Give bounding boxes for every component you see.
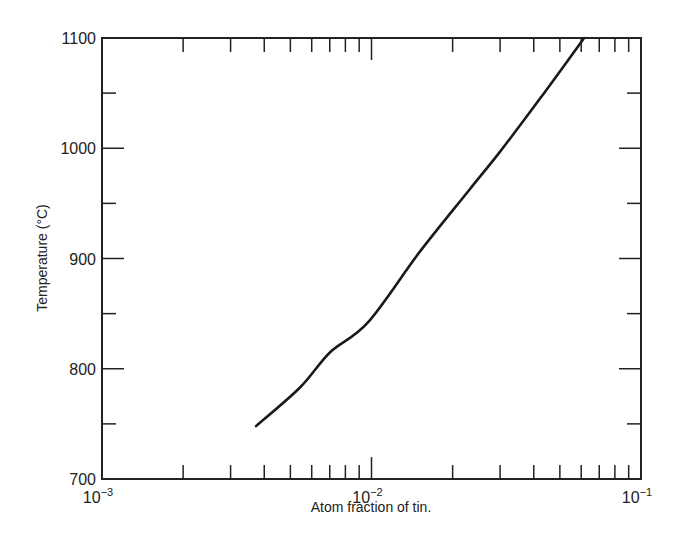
chart: 10−310−210−170080090010001100 Atom fract… xyxy=(0,0,687,547)
x-tick-exponent: −1 xyxy=(640,486,653,498)
series-line-solubility xyxy=(256,38,584,426)
axes xyxy=(102,38,641,479)
plot-frame xyxy=(102,38,641,479)
x-tick-label: 10−3 xyxy=(83,486,113,506)
y-tick-label: 1100 xyxy=(62,30,97,47)
x-tick-exponent: −3 xyxy=(101,486,114,498)
x-tick-base: 10 xyxy=(83,489,101,506)
y-tick-label: 900 xyxy=(69,251,96,268)
y-tick-label: 1000 xyxy=(60,140,96,157)
y-tick-label: 800 xyxy=(69,361,96,378)
y-axis-title: Temperature (°C) xyxy=(34,204,50,312)
labels: 10−310−210−170080090010001100 xyxy=(60,30,652,506)
series xyxy=(256,38,584,426)
y-tick-label: 700 xyxy=(69,471,96,488)
ticks xyxy=(102,38,641,479)
x-tick-exponent: −2 xyxy=(370,486,383,498)
x-tick-label: 10−1 xyxy=(622,486,652,506)
x-tick-base: 10 xyxy=(622,489,640,506)
x-axis-title: Atom fraction of tin. xyxy=(311,499,432,515)
